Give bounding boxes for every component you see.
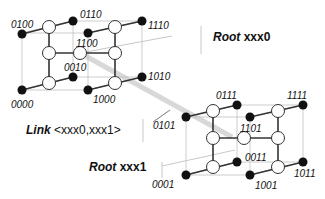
node-1011 — [299, 158, 308, 167]
node-1000 — [84, 86, 93, 95]
label-0101: 0101 — [153, 121, 175, 131]
label-1010: 1010 — [148, 72, 170, 82]
node-black-upper-mid — [84, 29, 93, 38]
cube-lower — [182, 101, 308, 180]
node-1001 — [246, 171, 255, 180]
label-1101: 1101 — [240, 124, 262, 134]
label-0010: 0010 — [64, 63, 86, 73]
node-0000 — [18, 86, 27, 95]
node-0101 — [182, 113, 191, 122]
label-1000: 1000 — [93, 95, 115, 105]
node-0110 — [69, 17, 78, 26]
node-0011 — [233, 158, 242, 167]
root-xxx0-label: Root xxx0 — [213, 31, 270, 43]
link-value: <xxx0,xxx1> — [54, 123, 121, 137]
label-0111: 0111 — [216, 91, 237, 101]
label-1011: 1011 — [294, 169, 316, 179]
node-white — [43, 21, 56, 34]
label-0110: 0110 — [80, 10, 102, 20]
node-0100 — [18, 30, 27, 39]
root-value: xxx1 — [120, 160, 147, 174]
node-1110 — [138, 17, 147, 26]
root1-connector — [162, 150, 235, 166]
node-white — [272, 105, 285, 118]
node-black-lower-mid — [246, 113, 255, 122]
label-0001: 0001 — [152, 180, 174, 190]
link-label: Link <xxx0,xxx1> — [26, 124, 121, 136]
node-1010 — [138, 73, 147, 82]
node-1111 — [299, 101, 308, 110]
node-white — [272, 132, 285, 145]
label-0100: 0100 — [11, 20, 33, 30]
root-xxx1-label: Root xxx1 — [89, 161, 146, 173]
root-word: Root — [89, 160, 116, 174]
hypercube-diagram: 0100 0110 1110 1100 0010 1010 0000 1000 … — [0, 0, 325, 199]
node-white — [207, 105, 220, 118]
node-white — [109, 21, 122, 34]
cube-upper — [18, 17, 147, 95]
node-0111 — [233, 101, 242, 110]
node-0010 — [69, 73, 78, 82]
node-white — [207, 132, 220, 145]
node-white — [207, 161, 220, 174]
label-0011: 0011 — [245, 153, 267, 163]
node-white — [272, 161, 285, 174]
node-white — [43, 77, 56, 90]
label-0000: 0000 — [11, 100, 33, 110]
label-1100: 1100 — [76, 39, 98, 49]
label-1001: 1001 — [255, 181, 277, 191]
label-1111: 1111 — [287, 91, 307, 101]
root-value: xxx0 — [244, 30, 271, 44]
node-white — [109, 47, 122, 60]
node-white — [109, 77, 122, 90]
link-word: Link — [26, 123, 51, 137]
root-word: Root — [213, 30, 240, 44]
node-0001 — [182, 171, 191, 180]
node-white — [43, 47, 56, 60]
label-1110: 1110 — [148, 21, 169, 31]
